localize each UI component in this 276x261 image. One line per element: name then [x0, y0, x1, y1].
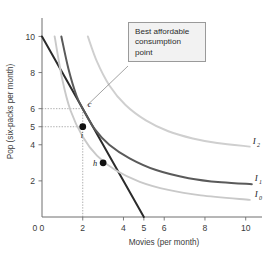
- y-tick-label: 2: [30, 176, 35, 186]
- x-axis-title: Movies (per month): [129, 238, 200, 247]
- point-label-h: h: [93, 159, 97, 168]
- y-axis-title: Pop (six-packs per month): [6, 63, 15, 159]
- point-h: [100, 159, 107, 166]
- x-tick-label: 5: [141, 223, 146, 233]
- y-tick-label: 10: [25, 32, 35, 42]
- svg-text:0: 0: [259, 195, 262, 201]
- curve-label-i0: I0: [254, 189, 262, 201]
- curve-label-i1: I1: [254, 173, 262, 185]
- annotation-line-1: Best affordable: [135, 27, 200, 37]
- x-tick-label: 4: [121, 223, 126, 233]
- leader-line: [87, 66, 128, 106]
- svg-text:1: 1: [259, 179, 262, 185]
- point-i: [79, 123, 86, 130]
- curve-label-i2: I2: [252, 136, 260, 148]
- x-tick-label: 6: [162, 223, 167, 233]
- chart-labels: cih0245681024568100Movies (per month)Pop…: [6, 32, 262, 247]
- annotation-line-2: consumption: [135, 37, 200, 47]
- y-tick-label: 5: [30, 122, 35, 132]
- x-tick-label: 0: [40, 223, 45, 233]
- y-tick-label: 6: [30, 104, 35, 114]
- x-tick-label: 2: [80, 223, 85, 233]
- annotation-leader-line: [87, 66, 128, 106]
- y-tick-label: 4: [30, 140, 35, 150]
- x-tick-label: 10: [241, 223, 251, 233]
- annotation-line-3: point: [135, 48, 200, 58]
- x-tick-label: 8: [203, 223, 208, 233]
- y-tick-label: 8: [30, 68, 35, 78]
- indifference-curve-chart: cih0245681024568100Movies (per month)Pop…: [0, 0, 276, 261]
- svg-text:2: 2: [257, 142, 260, 148]
- point-label-c: c: [88, 100, 92, 109]
- x-tick-label-zero: 0: [33, 223, 38, 233]
- annotation-callout: Best affordableconsumptionpoint: [128, 22, 206, 62]
